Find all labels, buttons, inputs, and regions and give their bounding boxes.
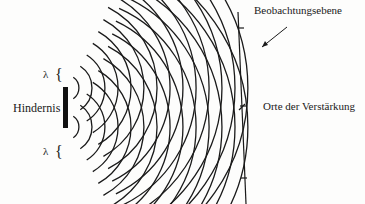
obstacle-label: Hindernis — [13, 101, 60, 116]
wavefront-arc — [73, 77, 79, 98]
reinforcement-label: Orte der Verstärkung — [263, 100, 355, 112]
wavefront-arc — [98, 32, 131, 145]
wavelength-symbol-bottom: λ — [43, 145, 48, 157]
brace-top: { — [55, 67, 63, 83]
wavefront-arc — [112, 0, 170, 181]
wavefront-arc — [119, 0, 196, 204]
wavefront-arcs — [73, 0, 248, 204]
obstacle-bar — [63, 87, 68, 128]
brace-bottom: { — [55, 144, 63, 160]
wavefront-arc — [98, 71, 131, 184]
diffraction-diagram: Beobachtungsebene Orte der Verstärkung H… — [0, 0, 365, 204]
wavelength-symbol-top: λ — [43, 68, 48, 80]
wavefront-arc — [80, 66, 92, 109]
arrow-head-icon — [262, 41, 268, 47]
observation-plane-label: Beobachtungsebene — [254, 4, 342, 16]
wavefront-arc — [73, 116, 79, 137]
wavefront-arc — [80, 105, 92, 148]
